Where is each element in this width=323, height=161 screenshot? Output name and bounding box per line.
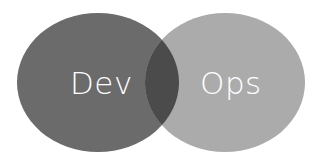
- venn-diagram: [0, 0, 323, 161]
- ops-label: Ops: [200, 68, 262, 99]
- dev-label: Dev: [70, 68, 133, 99]
